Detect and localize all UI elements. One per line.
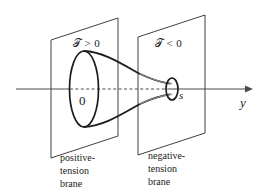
diagram-canvas [0,0,267,196]
negative-tension-brane-caption: negative- tension brane [148,150,185,188]
positive-tension-value-label: 𝒯 > 0 [73,37,100,50]
caption-line: positive- [60,152,95,165]
negative-tension-value-label: 𝒯 < 0 [155,37,182,50]
axis-y-label: y [240,95,246,110]
axis-s-point-label: s [179,89,183,102]
caption-line: brane [60,178,95,191]
caption-line: tension [148,163,185,176]
caption-line: tension [60,165,95,178]
positive-tension-brane-caption: positive- tension brane [60,152,95,190]
axis-origin-label: 0 [79,93,86,108]
axis-arrowhead-icon [245,85,253,92]
negative-tension-brane-plane [138,15,205,155]
caption-line: brane [148,176,185,189]
caption-line: negative- [148,150,185,163]
brane-diagram: 𝒯 > 0 𝒯 < 0 0 s y positive- tension bran… [0,0,267,196]
